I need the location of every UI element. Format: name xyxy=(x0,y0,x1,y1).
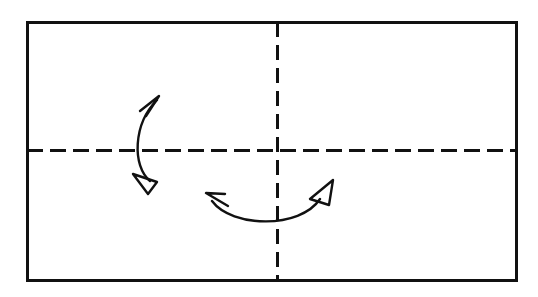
diagram-canvas xyxy=(0,0,538,297)
origami-diagram xyxy=(0,0,538,297)
